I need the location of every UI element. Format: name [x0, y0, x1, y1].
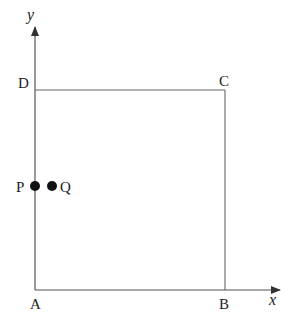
- square-diagram: y x D C A B P Q: [0, 0, 291, 330]
- diagram-canvas: y x D C A B P Q: [0, 0, 291, 330]
- vertex-a-label: A: [30, 296, 41, 312]
- point-q-label: Q: [60, 179, 71, 195]
- vertex-c-label: C: [219, 73, 229, 89]
- point-p-label: P: [16, 179, 24, 195]
- x-axis-label: x: [268, 291, 276, 308]
- point-p-dot: [30, 181, 40, 191]
- vertex-d-label: D: [18, 75, 29, 91]
- vertex-b-label: B: [219, 296, 229, 312]
- point-q-dot: [47, 181, 57, 191]
- y-axis-label: y: [25, 6, 35, 24]
